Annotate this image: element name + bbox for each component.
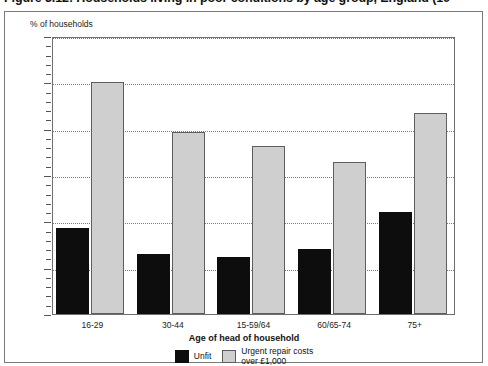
y-axis-minor-tick bbox=[46, 232, 51, 233]
y-axis-minor-tick bbox=[46, 250, 51, 251]
y-axis-minor-tick bbox=[46, 102, 51, 103]
bar-urgent-repair-costs bbox=[252, 146, 285, 314]
y-axis-minor-tick bbox=[46, 148, 51, 149]
y-axis-minor-tick bbox=[46, 46, 51, 47]
bar-group bbox=[375, 38, 456, 314]
x-axis-title: Age of head of household bbox=[0, 333, 488, 343]
bar-unfit bbox=[56, 228, 89, 314]
y-axis-minor-tick bbox=[46, 259, 51, 260]
y-axis-minor-tick bbox=[46, 204, 51, 205]
y-axis-minor-tick bbox=[46, 213, 51, 214]
chart-legend: UnfitUrgent repair costs over £1,000 bbox=[0, 347, 488, 366]
x-axis-label: 30-44 bbox=[162, 320, 184, 330]
y-axis-minor-tick bbox=[46, 296, 51, 297]
y-axis-tick bbox=[44, 130, 51, 131]
x-axis-label: 75+ bbox=[407, 320, 421, 330]
y-axis-minor-tick bbox=[46, 241, 51, 242]
x-axis-label: 60/65-74 bbox=[317, 320, 351, 330]
plot-area bbox=[52, 37, 455, 315]
legend-entry: Urgent repair costs over £1,000 bbox=[222, 347, 313, 366]
y-axis-minor-tick bbox=[46, 167, 51, 168]
y-axis-minor-tick bbox=[46, 139, 51, 140]
bar-urgent-repair-costs bbox=[172, 132, 205, 314]
bar-urgent-repair-costs bbox=[414, 113, 447, 314]
bars-layer bbox=[53, 38, 454, 314]
y-axis-minor-tick bbox=[46, 111, 51, 112]
grey-square-icon bbox=[222, 350, 236, 363]
y-axis-minor-tick bbox=[46, 93, 51, 94]
legend-label: Unfit bbox=[194, 352, 211, 362]
bar-group bbox=[53, 38, 134, 314]
y-axis-tick bbox=[44, 269, 51, 270]
bar-group bbox=[134, 38, 215, 314]
y-axis-minor-tick bbox=[46, 306, 51, 307]
y-axis-minor-tick bbox=[46, 157, 51, 158]
x-axis-label: 16-29 bbox=[81, 320, 103, 330]
black-square-icon bbox=[175, 350, 189, 363]
figure-root: Figure 3.12: Households living in poor c… bbox=[0, 0, 488, 366]
y-axis-caption: % of households bbox=[30, 19, 93, 29]
y-axis-minor-tick bbox=[46, 74, 51, 75]
legend-label: Urgent repair costs over £1,000 bbox=[241, 347, 313, 366]
y-axis-minor-tick bbox=[46, 287, 51, 288]
y-axis-minor-tick bbox=[46, 65, 51, 66]
bar-group bbox=[295, 38, 376, 314]
legend-entry: Unfit bbox=[175, 350, 211, 363]
bar-unfit bbox=[217, 257, 250, 314]
y-axis-tick bbox=[44, 222, 51, 223]
bar-unfit bbox=[137, 254, 170, 314]
x-axis-label: 15-59/64 bbox=[237, 320, 271, 330]
figure-title: Figure 3.12: Households living in poor c… bbox=[4, 0, 488, 5]
y-axis-tick bbox=[44, 176, 51, 177]
y-axis-minor-tick bbox=[46, 185, 51, 186]
bar-unfit bbox=[298, 249, 331, 314]
y-axis-minor-tick bbox=[46, 278, 51, 279]
y-axis-tick bbox=[44, 37, 51, 38]
y-axis-tick bbox=[44, 83, 51, 84]
y-axis-minor-tick bbox=[46, 56, 51, 57]
bar-urgent-repair-costs bbox=[333, 162, 366, 314]
bar-group bbox=[214, 38, 295, 314]
y-axis-minor-tick bbox=[46, 195, 51, 196]
y-axis-minor-tick bbox=[46, 120, 51, 121]
y-axis-tick bbox=[44, 315, 51, 316]
bar-urgent-repair-costs bbox=[91, 82, 124, 314]
bar-unfit bbox=[379, 212, 412, 314]
